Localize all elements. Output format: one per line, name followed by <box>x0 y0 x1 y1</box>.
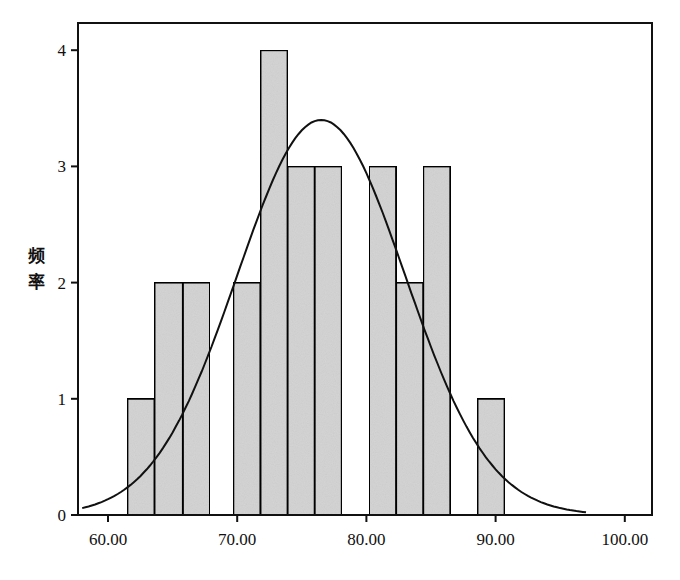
histogram-bar <box>261 50 288 515</box>
histogram-bar <box>183 283 210 515</box>
y-tick-label: 2 <box>58 274 67 293</box>
y-tick-label: 0 <box>58 506 67 525</box>
histogram-bar <box>288 166 315 515</box>
x-tick-label: 100.00 <box>601 530 648 549</box>
y-label-char: 率 <box>28 272 45 292</box>
histogram-bar <box>155 283 183 515</box>
y-tick-label: 4 <box>58 41 67 60</box>
histogram-bar <box>315 166 342 515</box>
histogram-chart: 60.0070.0080.0090.00100.00 01234 频率 <box>0 0 680 580</box>
histogram-bar <box>423 166 450 515</box>
y-tick-label: 1 <box>58 390 67 409</box>
y-tick-label: 3 <box>58 157 67 176</box>
histogram-bar <box>233 283 260 515</box>
x-tick-label: 90.00 <box>476 530 514 549</box>
x-tick-label: 60.00 <box>89 530 127 549</box>
y-axis: 01234 <box>58 41 79 525</box>
x-axis: 60.0070.0080.0090.00100.00 <box>89 515 648 549</box>
y-axis-label: 频率 <box>28 246 45 292</box>
y-label-char: 频 <box>28 246 45 266</box>
histogram-bar <box>127 399 154 515</box>
histogram-bar <box>369 166 396 515</box>
x-tick-label: 70.00 <box>218 530 256 549</box>
histogram-bar <box>478 399 505 515</box>
x-tick-label: 80.00 <box>347 530 385 549</box>
